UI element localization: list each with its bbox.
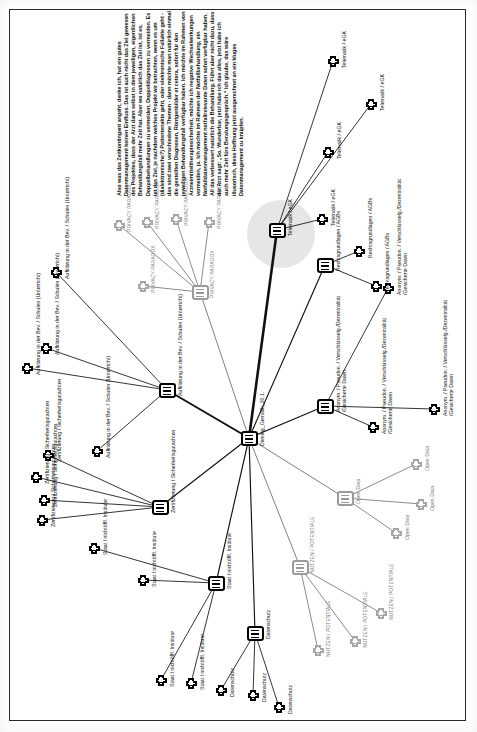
document-glyph-icon [152, 500, 169, 515]
hub-to-center-edge [167, 390, 249, 438]
code-marker-icon [416, 499, 427, 510]
code-marker-icon [216, 685, 227, 696]
code-marker-icon [248, 690, 259, 701]
code-instance-label-anonym-0-2: /Gesicherte Daten [387, 392, 393, 434]
member-to-hub-edge [176, 219, 200, 292]
code-instance-label-staat-2: Staat / nichtöffl. Institute [169, 631, 175, 687]
code-marker-icon [114, 220, 125, 231]
code-instance-label-open-data-0: Open Data [424, 446, 430, 471]
code-marker-icon [317, 214, 328, 225]
scanned-page: Also was das Zeitkontingent angeht, denk… [0, 0, 477, 732]
code-group-label-staat: Staat / nichtöffl. Institute [226, 533, 232, 589]
member-to-hub-edge [253, 633, 255, 695]
document-glyph-icon [317, 399, 334, 414]
code-marker-icon [138, 281, 149, 292]
code-instance-label-rechtsgrundlagen-1: Rechtsgrundlagen / AGBs [367, 198, 373, 258]
code-instance-label-aufklaerung-3: Aufklärung in der Bev. / Schulen (Unterr… [105, 356, 111, 458]
code-instance-label-aufklaerung-1: Aufklärung in der Bev. / Schulen (Unterr… [54, 253, 60, 355]
member-to-hub-edge [42, 507, 160, 520]
member-to-hub-edge [277, 61, 333, 230]
code-instance-label-rechtsgrundlagen-0: Rechtsgrundlagen / AGBs [384, 233, 390, 293]
code-marker-icon [171, 214, 182, 225]
code-marker-icon [39, 495, 50, 506]
code-marker-icon [376, 608, 387, 619]
code-instance-label-anonym-1-2: /Gesicherte Daten [448, 374, 454, 416]
code-marker-icon [186, 678, 197, 689]
code-instance-label-zertifizierung-3: Zertifizierung / Sicherheitsgutachten [50, 444, 56, 528]
document-glyph-icon [317, 258, 334, 273]
code-marker-icon [31, 472, 42, 483]
hub-to-center-edge [249, 438, 300, 567]
code-marker-icon [366, 99, 377, 110]
code-marker-icon [328, 56, 339, 67]
document-glyph-icon [247, 626, 264, 641]
code-instance-label-aufklaerung-2: Aufklärung in der Bev. / Schulen (Unterr… [35, 273, 41, 375]
code-marker-icon [429, 404, 440, 415]
code-instance-label-telematik-3: Telematik / eGK [330, 189, 336, 226]
code-instance-label-staat-3: Staat / nichtöffl. Institute [199, 634, 205, 690]
code-instance-label-nutzen-2: NUTZEN / POTENTIALE [389, 563, 395, 620]
code-group-label-telematik: Telematik / eGK [287, 199, 293, 236]
code-group-label-privacy-paradox: PRIVACY PARADOX [210, 250, 216, 298]
document-glyph-icon [192, 285, 209, 300]
code-group-label-aufklaerung: Aufklärung in der Bev. / Schulen (Unterr… [177, 294, 183, 396]
code-marker-icon [92, 446, 103, 457]
code-group-label-zertifizierung: Zertifizierung / Sicherheitsgutachten [170, 430, 176, 514]
code-marker-icon [89, 543, 100, 554]
document-glyph-icon [337, 491, 354, 506]
code-instance-label-datenschutz-1: Datenschutz [261, 673, 267, 702]
document-glyph-icon [241, 431, 258, 446]
code-marker-icon [371, 281, 382, 292]
code-instance-label-staat-1: Staat / nichtöffl. Institute [151, 531, 157, 587]
document-glyph-icon [292, 560, 309, 575]
code-marker-icon [22, 363, 33, 374]
code-instance-label-open-data-1: Open Data [429, 486, 435, 511]
interview-quote: Also was das Zeitkontingent angeht, denk… [116, 10, 245, 196]
code-marker-icon [204, 217, 215, 228]
code-marker-icon [313, 645, 324, 656]
code-marker-icon [368, 422, 379, 433]
hub-to-center-edge [200, 292, 249, 438]
document-glyph-icon [159, 383, 176, 398]
code-marker-icon [37, 515, 48, 526]
center-document-label: Diening_Gemalik_20.1. [259, 392, 265, 446]
code-instance-label-datenschutz-2: Datenschutz [287, 685, 293, 714]
code-group-label-open-data: Open Data [355, 479, 361, 504]
code-marker-icon [138, 575, 149, 586]
member-to-hub-edge [27, 368, 167, 390]
code-instance-label-anonym-2-2: /Gesicherte Daten [402, 253, 408, 295]
code-marker-icon [156, 675, 167, 686]
code-instance-label-telematik-2: Telematik / eGK [341, 31, 347, 68]
code-instance-label-nutzen-0: NUTZEN / POTENTIALE [326, 600, 332, 657]
code-instance-label-open-data-2: Open Data [404, 515, 410, 540]
code-marker-icon [142, 217, 153, 228]
code-marker-icon [323, 147, 334, 158]
code-marker-icon [274, 702, 285, 713]
hub-to-center-edge [249, 438, 255, 633]
code-marker-icon [354, 246, 365, 257]
code-group-label-datenschutz: Datenschutz [265, 610, 271, 639]
code-group-label-anonym-2: /Gesicherte Daten [341, 370, 347, 412]
code-group-label-nutzen: NUTZEN / POTENTIALE [310, 516, 316, 573]
code-instance-label-aufklaerung-0: Aufklärung in der Bev. / Schulen (Unterr… [64, 177, 70, 279]
code-marker-icon [411, 459, 422, 470]
code-instance-label-privacy-paradox-4: PRIVACY PARADOX [151, 245, 157, 293]
document-glyph-icon [208, 576, 225, 591]
code-marker-icon [391, 528, 402, 539]
member-to-hub-edge [221, 633, 255, 690]
code-instance-label-staat-0: Staat / nichtöffl. Institute [102, 499, 108, 555]
code-instance-label-telematik-0: Telematik / eGK [336, 122, 342, 159]
document-glyph-icon [269, 223, 286, 238]
member-to-hub-edge [200, 222, 209, 292]
code-instance-label-datenschutz-0: Datenschutz [229, 668, 235, 697]
hub-to-center-edge [249, 438, 345, 498]
code-marker-icon [350, 636, 361, 647]
code-instance-label-nutzen-1: NUTZEN / POTENTIALE [363, 591, 369, 648]
member-to-hub-edge [119, 225, 200, 292]
code-instance-label-telematik-1: Telematik / eGK [379, 74, 385, 111]
code-marker-icon [41, 343, 52, 354]
